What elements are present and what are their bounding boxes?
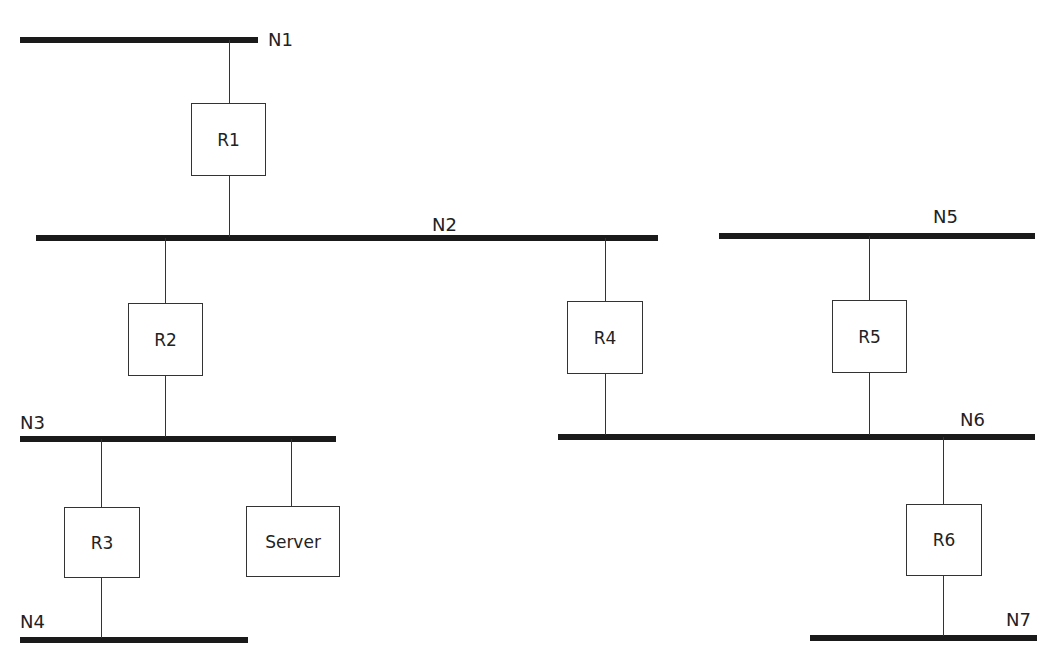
- network-bus-n5: [719, 233, 1035, 239]
- link-r1-n2: [229, 175, 230, 237]
- router-r1-label: R1: [217, 130, 240, 150]
- server-label: Server: [265, 532, 321, 552]
- network-label-n3: N3: [20, 414, 45, 432]
- network-label-n4: N4: [20, 613, 45, 631]
- router-r2-label: R2: [154, 330, 177, 350]
- server: Server: [246, 506, 340, 577]
- router-r6-label: R6: [933, 530, 956, 550]
- router-r6: R6: [906, 504, 982, 576]
- router-r5-label: R5: [858, 327, 881, 347]
- link-n2-r4: [605, 238, 606, 301]
- link-r3-n4: [101, 577, 102, 638]
- router-r4: R4: [567, 301, 643, 374]
- network-bus-n3: [20, 436, 336, 442]
- link-n3-server: [291, 439, 292, 506]
- link-n1-r1: [229, 40, 230, 103]
- link-r4-n6: [605, 373, 606, 435]
- router-r2: R2: [128, 303, 203, 376]
- router-r1: R1: [191, 103, 266, 176]
- link-n6-r6: [943, 437, 944, 504]
- link-n3-r3: [101, 439, 102, 507]
- router-r5: R5: [832, 300, 907, 373]
- link-r2-n3: [165, 375, 166, 437]
- router-r4-label: R4: [594, 328, 617, 348]
- network-label-n1: N1: [268, 31, 293, 49]
- link-r6-n7: [943, 575, 944, 636]
- network-diagram: N1 N2 N3 N4 N5 N6 N7 R1 R2 R3 Server R4: [0, 0, 1055, 664]
- router-r3-label: R3: [91, 533, 114, 553]
- network-label-n7: N7: [1006, 611, 1031, 629]
- network-bus-n1: [20, 37, 258, 43]
- network-label-n2: N2: [432, 216, 457, 234]
- router-r3: R3: [64, 507, 140, 578]
- network-bus-n4: [20, 637, 248, 643]
- network-bus-n7: [810, 635, 1037, 641]
- network-label-n6: N6: [960, 411, 985, 429]
- network-bus-n2: [36, 235, 658, 241]
- network-bus-n6: [558, 434, 1035, 440]
- link-n5-r5: [869, 236, 870, 300]
- link-r5-n6: [869, 372, 870, 435]
- link-n2-r2: [165, 238, 166, 303]
- network-label-n5: N5: [933, 208, 958, 226]
